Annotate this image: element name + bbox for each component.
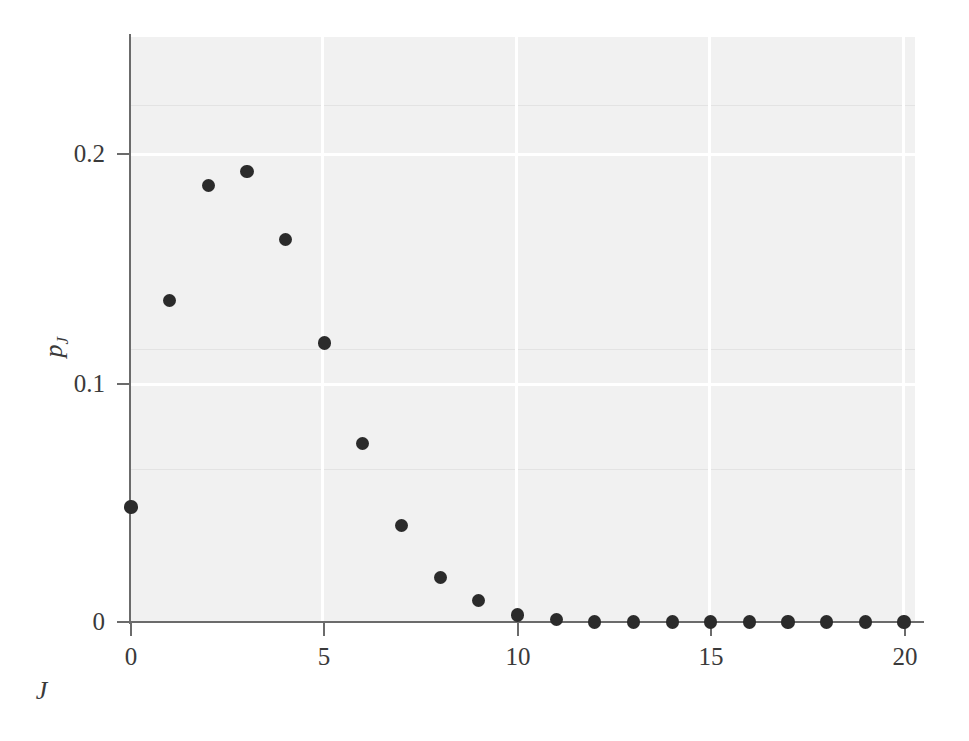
data-point	[743, 615, 756, 628]
data-point	[781, 615, 794, 628]
x-tick-10	[517, 623, 519, 636]
gridline-x-10	[515, 37, 518, 622]
y-tick-label-0: 0	[45, 609, 105, 634]
y-axis-title: pJ	[39, 287, 73, 407]
data-point	[897, 615, 910, 628]
gridline-x-20	[902, 37, 905, 622]
scan-artifact	[131, 349, 915, 350]
x-tick-label-10: 10	[488, 644, 548, 669]
scatter-plot-figure: 0.2 0.1 0 0 5 10 15 20 pJ J	[0, 0, 969, 741]
data-point	[318, 336, 331, 349]
scan-artifact	[131, 105, 915, 106]
x-tick-label-5: 5	[294, 644, 354, 669]
data-point	[627, 615, 640, 628]
gridline-x-15	[708, 37, 711, 622]
data-point	[666, 615, 679, 628]
x-axis-title: J	[0, 676, 969, 706]
y-tick-0.1	[117, 383, 130, 385]
plot-panel	[131, 37, 915, 622]
scan-artifact	[131, 469, 915, 470]
data-point	[240, 165, 253, 178]
data-point	[124, 500, 137, 513]
gridline-x-5	[321, 37, 324, 622]
x-axis-line	[118, 621, 924, 623]
y-tick-0.2	[117, 153, 130, 155]
y-axis-title-subscript: J	[53, 337, 72, 345]
gridline-y-0.2	[131, 153, 915, 156]
x-tick-label-20: 20	[875, 644, 935, 669]
data-point	[859, 615, 872, 628]
y-tick-label-0.2: 0.2	[45, 141, 105, 166]
x-tick-label-15: 15	[681, 644, 741, 669]
data-point	[550, 613, 563, 626]
data-point	[511, 608, 524, 621]
x-tick-0	[130, 623, 132, 636]
x-tick-label-0: 0	[101, 644, 161, 669]
gridline-y-0.1	[131, 383, 915, 386]
x-tick-5	[323, 623, 325, 636]
y-axis-line	[129, 34, 131, 624]
y-axis-title-base: p	[39, 344, 68, 357]
data-point	[820, 615, 833, 628]
data-point	[704, 615, 717, 628]
data-point	[434, 571, 447, 584]
data-point	[588, 615, 601, 628]
y-tick-0	[117, 621, 130, 623]
